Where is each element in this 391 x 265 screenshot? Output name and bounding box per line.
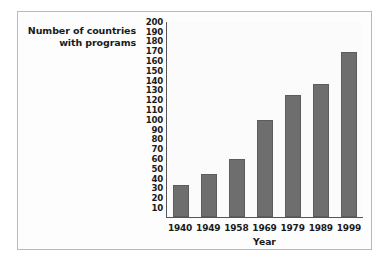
bar-series — [167, 22, 363, 217]
bar-slot — [307, 22, 335, 217]
y-axis-tick: 70 — [141, 145, 163, 154]
bar-slot — [335, 22, 363, 217]
bar-1989 — [313, 84, 329, 217]
y-axis-tick: 30 — [141, 184, 163, 193]
y-axis-tick: 170 — [141, 47, 163, 56]
y-axis-tick: 130 — [141, 86, 163, 95]
x-axis-tick: 1989 — [307, 223, 335, 233]
bar-slot — [279, 22, 307, 217]
bar-1940 — [173, 185, 189, 217]
x-axis-label: Year — [166, 236, 363, 247]
y-axis-tick: 10 — [141, 204, 163, 213]
y-axis-tick: 140 — [141, 77, 163, 86]
y-axis-tick: 200 — [141, 18, 163, 27]
bar-slot — [167, 22, 195, 217]
bar-1979 — [285, 95, 301, 217]
y-axis-tick-labels: 2001901801701601501401301201101009080706… — [141, 22, 163, 218]
x-axis-tick: 1940 — [166, 223, 194, 233]
y-axis-tick: 100 — [141, 116, 163, 125]
bar-1958 — [229, 159, 245, 217]
bar-1999 — [341, 52, 357, 217]
y-axis-tick: 80 — [141, 135, 163, 144]
y-axis-tick: 190 — [141, 28, 163, 37]
y-axis-tick: 20 — [141, 194, 163, 203]
x-axis-tick: 1949 — [194, 223, 222, 233]
bar-slot — [223, 22, 251, 217]
y-axis-tick: 120 — [141, 96, 163, 105]
chart-figure: Number of countries with programs 200190… — [17, 11, 372, 250]
y-axis-label-line-1: Number of countries — [24, 25, 136, 37]
y-axis-tick: 180 — [141, 37, 163, 46]
y-axis-label-line-2: with programs — [24, 37, 136, 49]
x-axis-tick-labels: 1940194919581969197919891999 — [166, 223, 363, 233]
y-axis-tick: 60 — [141, 155, 163, 164]
bar-1969 — [257, 120, 273, 217]
plot-area: 2001901801701601501401301201101009080706… — [141, 22, 363, 218]
y-axis-tick: 110 — [141, 106, 163, 115]
y-axis-tick: 50 — [141, 165, 163, 174]
bar-slot — [251, 22, 279, 217]
y-axis-tick: 40 — [141, 175, 163, 184]
y-axis-tick: 150 — [141, 67, 163, 76]
bar-slot — [195, 22, 223, 217]
x-axis-tick: 1999 — [335, 223, 363, 233]
y-axis-tick: 160 — [141, 57, 163, 66]
x-axis-tick: 1958 — [222, 223, 250, 233]
bar-1949 — [201, 174, 217, 217]
y-axis-tick: 90 — [141, 126, 163, 135]
y-axis-label: Number of countries with programs — [24, 25, 136, 48]
x-axis-tick: 1969 — [250, 223, 278, 233]
plot-axes — [166, 22, 363, 218]
x-axis-tick: 1979 — [279, 223, 307, 233]
